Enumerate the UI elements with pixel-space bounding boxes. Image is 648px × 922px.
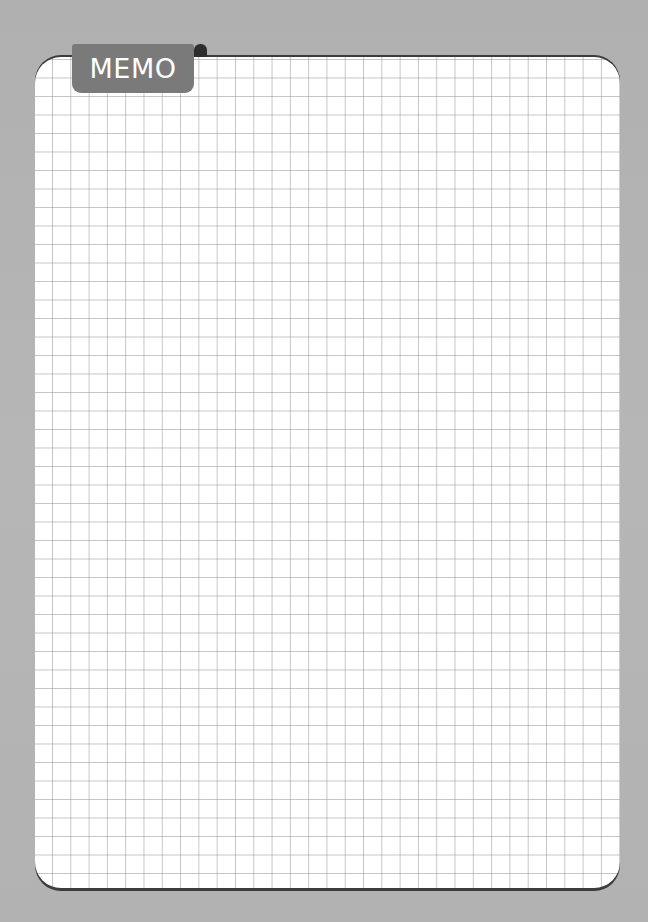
memo-tab: MEMO xyxy=(72,44,194,93)
memo-tab-label: MEMO xyxy=(90,53,177,84)
tab-curl-icon xyxy=(194,44,207,57)
memo-grid-sheet[interactable] xyxy=(35,57,620,888)
